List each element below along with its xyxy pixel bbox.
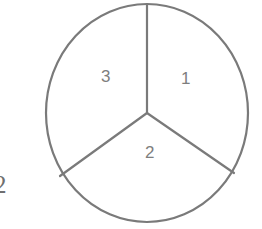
sector-label-2: 2	[140, 144, 160, 161]
canvas-background	[0, 0, 262, 229]
clipped-edge-text: 2	[0, 172, 12, 197]
sector-label-3: 3	[96, 68, 116, 85]
sector-label-1: 1	[176, 70, 196, 87]
pie-circle-diagram	[0, 0, 262, 229]
